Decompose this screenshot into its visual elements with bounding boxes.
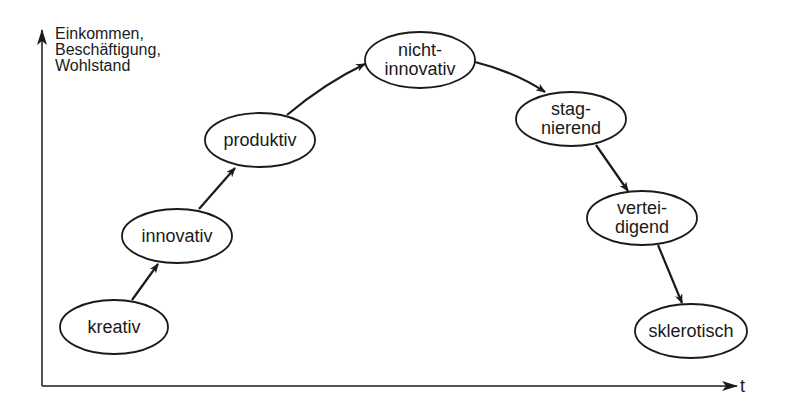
node-label: nicht- <box>398 41 442 60</box>
arrow-innovativ-produktiv <box>199 168 235 209</box>
node-label: produktiv <box>223 131 296 150</box>
x-axis-label: t <box>740 376 745 397</box>
node-stagnierend: stag- nierend <box>516 92 626 146</box>
y-axis-label-line: Wohlstand <box>55 58 161 74</box>
arrow-kreativ-innovativ <box>132 264 158 300</box>
node-innovativ: innovativ <box>122 209 232 263</box>
arrow-stagnierend-verteidigend <box>596 145 628 191</box>
node-label: innovativ <box>141 227 212 246</box>
node-nicht-innovativ: nicht- innovativ <box>365 32 475 88</box>
y-axis-label: Einkommen, Beschäftigung, Wohlstand <box>55 26 161 74</box>
node-label: stag- <box>551 100 591 119</box>
node-produktiv: produktiv <box>205 113 315 167</box>
arrow-produktiv-nicht-innovativ <box>287 64 365 115</box>
node-kreativ: kreativ <box>60 300 168 354</box>
y-axis-label-line: Beschäftigung, <box>55 42 161 58</box>
node-label: kreativ <box>87 318 140 337</box>
node-label: innovativ <box>384 60 455 79</box>
y-axis-label-line: Einkommen, <box>55 26 161 42</box>
node-verteidigend: vertei- digend <box>587 191 697 245</box>
arrow-nicht-innovativ-stagnierend <box>475 62 545 92</box>
node-label: nierend <box>541 119 601 138</box>
node-sklerotisch: sklerotisch <box>635 304 747 358</box>
node-label: digend <box>615 218 669 237</box>
arrow-verteidigend-sklerotisch <box>658 245 682 303</box>
node-label: vertei- <box>617 199 667 218</box>
node-label: sklerotisch <box>648 322 733 341</box>
